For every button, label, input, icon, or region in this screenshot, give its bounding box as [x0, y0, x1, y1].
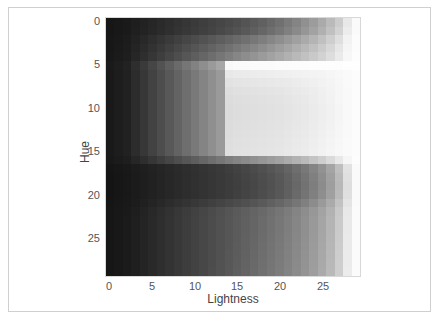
heatmap-cell	[318, 156, 326, 165]
heatmap-cell	[208, 113, 216, 122]
heatmap-cell	[182, 181, 190, 190]
heatmap-cell	[250, 173, 258, 182]
heatmap-cell	[343, 44, 351, 53]
heatmap-cell	[148, 121, 156, 130]
heatmap-cell	[284, 267, 292, 276]
heatmap-cell	[157, 173, 165, 182]
heatmap-cell	[114, 18, 122, 27]
heatmap-cell	[352, 224, 360, 233]
heatmap-cell	[123, 70, 131, 79]
heatmap-cell	[275, 147, 283, 156]
heatmap-cell	[199, 113, 207, 122]
heatmap-cell	[233, 164, 241, 173]
heatmap-cell	[182, 78, 190, 87]
heatmap-cell	[123, 95, 131, 104]
heatmap-cell	[225, 207, 233, 216]
heatmap-cell	[140, 130, 148, 139]
heatmap-cell	[191, 173, 199, 182]
heatmap-cell	[174, 173, 182, 182]
heatmap-cell	[343, 207, 351, 216]
heatmap-cell	[225, 259, 233, 268]
heatmap-cell	[352, 242, 360, 251]
heatmap-cell	[225, 156, 233, 165]
heatmap-cell	[275, 259, 283, 268]
heatmap-cell	[309, 242, 317, 251]
heatmap-cell	[267, 87, 275, 96]
heatmap-cell	[233, 207, 241, 216]
heatmap-cell	[241, 207, 249, 216]
heatmap-cell	[191, 130, 199, 139]
heatmap-cell	[123, 190, 131, 199]
heatmap-cell	[284, 138, 292, 147]
heatmap-cell	[106, 173, 114, 182]
heatmap-cell	[275, 156, 283, 165]
heatmap-cell	[208, 44, 216, 53]
heatmap-cell	[182, 156, 190, 165]
heatmap-cell	[318, 216, 326, 225]
heatmap-cell	[301, 207, 309, 216]
heatmap-cell	[318, 104, 326, 113]
heatmap-cell	[309, 233, 317, 242]
heatmap-cell	[148, 78, 156, 87]
heatmap-cell	[106, 70, 114, 79]
heatmap-cell	[250, 216, 258, 225]
heatmap-cell	[165, 164, 173, 173]
heatmap-cell	[199, 242, 207, 251]
heatmap-cell	[258, 130, 266, 139]
heatmap-cell	[106, 242, 114, 251]
heatmap-cell	[233, 35, 241, 44]
heatmap-cell	[191, 52, 199, 61]
heatmap-cell	[225, 224, 233, 233]
heatmap-cell	[258, 199, 266, 208]
heatmap-cell	[148, 18, 156, 27]
heatmap-cell	[233, 95, 241, 104]
heatmap-cell	[114, 70, 122, 79]
heatmap-cell	[352, 250, 360, 259]
heatmap-cell	[225, 199, 233, 208]
heatmap-cell	[301, 267, 309, 276]
heatmap-cell	[318, 52, 326, 61]
heatmap-cell	[140, 52, 148, 61]
heatmap-cell	[225, 113, 233, 122]
heatmap-cell	[258, 207, 266, 216]
heatmap-cell	[123, 242, 131, 251]
heatmap-cell	[326, 78, 334, 87]
heatmap-cell	[292, 224, 300, 233]
heatmap-cell	[216, 181, 224, 190]
heatmap-cell	[352, 70, 360, 79]
heatmap-cell	[258, 113, 266, 122]
heatmap-cell	[123, 233, 131, 242]
heatmap-cell	[275, 87, 283, 96]
heatmap-cell	[157, 61, 165, 70]
heatmap-cell	[326, 130, 334, 139]
heatmap-cell	[343, 156, 351, 165]
heatmap-cell	[343, 27, 351, 36]
heatmap-cell	[352, 44, 360, 53]
heatmap-cell	[123, 44, 131, 53]
heatmap-cell	[343, 61, 351, 70]
heatmap-cell	[165, 242, 173, 251]
heatmap-cell	[250, 70, 258, 79]
heatmap-cell	[123, 87, 131, 96]
heatmap-cell	[199, 130, 207, 139]
heatmap-cell	[267, 18, 275, 27]
heatmap-cell	[275, 61, 283, 70]
heatmap-cell	[174, 147, 182, 156]
heatmap-cell	[335, 35, 343, 44]
heatmap-cell	[225, 27, 233, 36]
heatmap-cell	[157, 113, 165, 122]
heatmap-cell	[301, 216, 309, 225]
heatmap-cell	[352, 104, 360, 113]
heatmap-cell	[216, 173, 224, 182]
heatmap-cell	[292, 173, 300, 182]
heatmap-cell	[114, 147, 122, 156]
heatmap-cell	[309, 61, 317, 70]
heatmap-cell	[182, 224, 190, 233]
heatmap-cell	[292, 52, 300, 61]
heatmap-cell	[301, 190, 309, 199]
heatmap-cell	[352, 78, 360, 87]
heatmap-cell	[174, 87, 182, 96]
heatmap-cell	[318, 113, 326, 122]
heatmap-cell	[343, 104, 351, 113]
heatmap-cell	[267, 61, 275, 70]
